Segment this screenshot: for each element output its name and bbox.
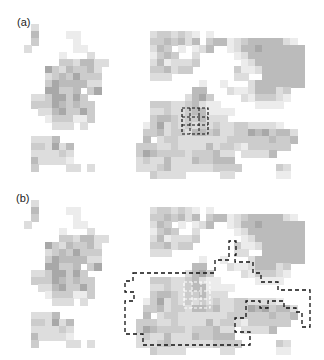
- panel-a: (a): [0, 0, 324, 180]
- selection-box-overlay: [0, 0, 324, 180]
- panel-b: (b): [0, 180, 324, 360]
- region-outline-overlay: [0, 180, 324, 360]
